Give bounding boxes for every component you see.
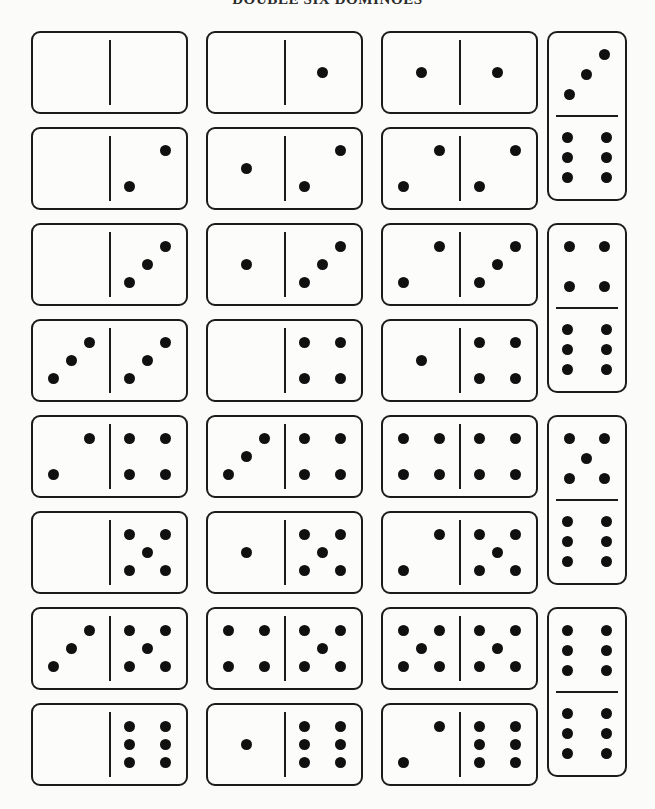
pip-empty (223, 643, 234, 654)
pip-empty (259, 67, 270, 78)
pip-empty (317, 565, 328, 576)
pip-group-5 (394, 621, 448, 676)
pip-empty (398, 529, 409, 540)
domino-half-a-1 (208, 705, 285, 784)
pip-empty (223, 547, 234, 558)
pip (124, 469, 135, 480)
pip-empty (398, 547, 409, 558)
pip (510, 373, 521, 384)
pip (492, 67, 503, 78)
pip-empty (474, 547, 485, 558)
pip (562, 152, 573, 163)
pip (160, 337, 171, 348)
domino-tile-4-4[interactable] (381, 415, 538, 498)
domino-tile-0-3[interactable] (31, 223, 188, 306)
domino-tile-2-6[interactable] (381, 703, 538, 786)
domino-half-b-3 (110, 225, 187, 304)
pip-empty (588, 172, 599, 183)
pip-empty (575, 172, 586, 183)
domino-tile-0-6[interactable] (31, 703, 188, 786)
domino-tile-4-6[interactable] (547, 223, 627, 393)
domino-tile-0-1[interactable] (206, 31, 363, 114)
domino-tile-6-6[interactable] (547, 607, 627, 777)
domino-tile-3-4[interactable] (206, 415, 363, 498)
pip (601, 152, 612, 163)
domino-tile-4-5[interactable] (206, 607, 363, 690)
pip-empty (398, 259, 409, 270)
domino-tile-5-6[interactable] (547, 415, 627, 585)
pip-group-5 (296, 525, 350, 580)
pip (564, 241, 575, 252)
pip (562, 728, 573, 739)
pip-group-4 (296, 429, 350, 484)
domino-tile-0-4[interactable] (206, 319, 363, 402)
domino-tile-2-2[interactable] (381, 127, 538, 210)
domino-tile-1-2[interactable] (206, 127, 363, 210)
pip-empty (335, 355, 346, 366)
pip-empty (259, 451, 270, 462)
pip (601, 645, 612, 656)
pip-empty (142, 757, 153, 768)
domino-tile-1-4[interactable] (381, 319, 538, 402)
domino-half-a-2 (383, 705, 460, 784)
domino-tile-3-6[interactable] (547, 31, 627, 201)
pip-empty (492, 337, 503, 348)
pip-empty (241, 643, 252, 654)
domino-divider-line (109, 520, 111, 585)
domino-tile-2-4[interactable] (31, 415, 188, 498)
pip (564, 433, 575, 444)
pip (142, 259, 153, 270)
domino-divider-line (109, 40, 111, 105)
domino-tile-5-5[interactable] (381, 607, 538, 690)
domino-tile-3-3[interactable] (31, 319, 188, 402)
domino-tile-0-0[interactable] (31, 31, 188, 114)
domino-tile-1-5[interactable] (206, 511, 363, 594)
domino-half-b-5 (460, 513, 537, 592)
pip-empty (241, 277, 252, 288)
pip (510, 529, 521, 540)
pip-empty (223, 565, 234, 576)
pip-group-1 (296, 45, 350, 100)
pip (474, 529, 485, 540)
domino-tile-1-1[interactable] (381, 31, 538, 114)
pip (581, 453, 592, 464)
domino-tile-1-6[interactable] (206, 703, 363, 786)
pip-empty (124, 163, 135, 174)
pip-empty (510, 85, 521, 96)
pip (510, 145, 521, 156)
domino-half-a-1 (383, 321, 460, 400)
pip-empty (492, 355, 503, 366)
domino-tile-0-2[interactable] (31, 127, 188, 210)
domino-tile-1-3[interactable] (206, 223, 363, 306)
domino-tile-2-3[interactable] (381, 223, 538, 306)
pip (335, 565, 346, 576)
pip-group-6 (561, 704, 613, 764)
domino-divider-line (556, 115, 618, 117)
pip-empty (241, 241, 252, 252)
pip-empty (492, 163, 503, 174)
domino-divider-line (109, 424, 111, 489)
domino-tile-0-5[interactable] (31, 511, 188, 594)
domino-tile-2-5[interactable] (381, 511, 538, 594)
pip-group-6 (561, 128, 613, 188)
pip-empty (241, 373, 252, 384)
pip-empty (474, 145, 485, 156)
pip-empty (160, 259, 171, 270)
pip-empty (259, 277, 270, 288)
pip-empty (510, 277, 521, 288)
pip-empty (66, 433, 77, 444)
pip (335, 373, 346, 384)
pip-empty (317, 625, 328, 636)
pip-empty (48, 433, 59, 444)
pip (317, 67, 328, 78)
pip-group-6 (471, 717, 525, 772)
pip-empty (416, 163, 427, 174)
pip-group-0 (44, 525, 98, 580)
pip-empty (259, 49, 270, 60)
pip (601, 324, 612, 335)
domino-tile-3-5[interactable] (31, 607, 188, 690)
pip-empty (66, 757, 77, 768)
pip (299, 739, 310, 750)
pip (160, 433, 171, 444)
pip-empty (416, 469, 427, 480)
